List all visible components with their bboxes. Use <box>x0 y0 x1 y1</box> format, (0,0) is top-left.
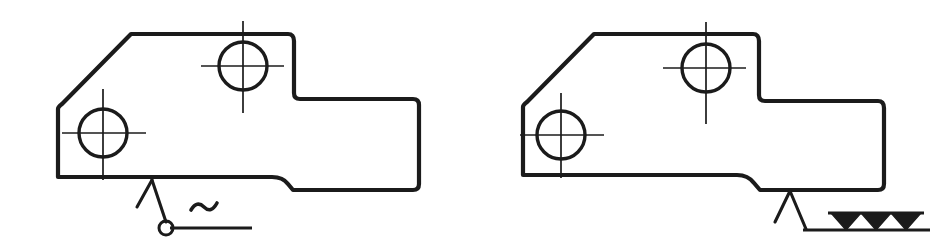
finish-triangle-1-icon <box>831 213 861 230</box>
symbol-left-leg-right <box>775 191 790 222</box>
symbol-right-leg-right <box>790 191 806 229</box>
finish-triangle-3-icon <box>891 213 921 230</box>
drawing-sheet: Stepped bracket profile (left view) Step… <box>0 0 945 250</box>
symbol-left-leg <box>137 180 152 207</box>
tilde-icon <box>191 203 217 210</box>
part-outline-right <box>523 34 884 190</box>
finish-triangle-2-icon <box>861 213 891 230</box>
as-cast-surface-symbol <box>137 180 252 235</box>
right-figure <box>520 22 930 230</box>
left-figure <box>58 21 419 235</box>
machined-surface-symbol <box>775 191 930 230</box>
symbol-right-leg <box>152 180 166 222</box>
technical-drawing-canvas: Stepped bracket profile (left view) Step… <box>0 0 945 250</box>
